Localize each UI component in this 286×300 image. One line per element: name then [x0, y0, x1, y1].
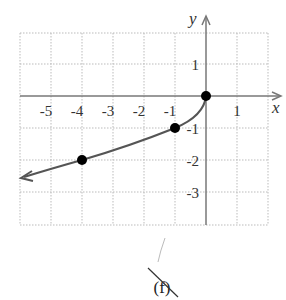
svg-text:-5: -5: [40, 103, 53, 119]
y-tick-labels: 1 -1 -2 -3: [187, 57, 200, 201]
svg-text:-4: -4: [71, 103, 84, 119]
pencil-mark: [158, 238, 165, 262]
x-axis-label: x: [271, 98, 280, 117]
svg-text:-2: -2: [187, 153, 200, 169]
svg-text:-1: -1: [164, 103, 177, 119]
x-tick-labels: -5 -4 -3 -2 -1 1: [40, 103, 241, 119]
axes: [20, 16, 281, 225]
svg-text:-3: -3: [187, 185, 200, 201]
svg-text:1: 1: [233, 103, 241, 119]
graph: x y -5 -4 -3 -2 -1 1 1 -1 -2 -3 (f): [0, 0, 286, 300]
y-axis-label: y: [187, 9, 197, 28]
svg-text:-3: -3: [102, 103, 115, 119]
svg-text:-2: -2: [133, 103, 146, 119]
svg-text:1: 1: [192, 57, 200, 73]
grid: [20, 33, 268, 225]
svg-text:-1: -1: [187, 121, 200, 137]
